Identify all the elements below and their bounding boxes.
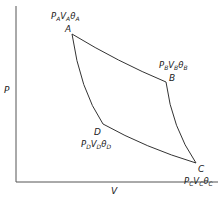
point-c-state: PCVCθC xyxy=(184,176,214,187)
point-a-label: A xyxy=(64,24,71,34)
point-a-state: PAVAθA xyxy=(51,11,80,22)
path-a-b xyxy=(72,34,166,82)
pv-diagram: P V A PAVAθA B PBVBθB C PCVCθC D PDVDθD xyxy=(0,0,220,198)
x-axis-label: V xyxy=(111,186,118,196)
path-b-c xyxy=(166,82,196,163)
y-axis-label: P xyxy=(4,85,10,95)
point-d-state: PDVDθD xyxy=(81,139,111,150)
path-c-d xyxy=(103,124,196,163)
point-d-label: D xyxy=(94,127,101,137)
point-c-label: C xyxy=(198,164,205,174)
point-b-label: B xyxy=(169,73,175,83)
path-d-a xyxy=(72,34,103,124)
point-b-state: PBVBθB xyxy=(159,60,188,71)
